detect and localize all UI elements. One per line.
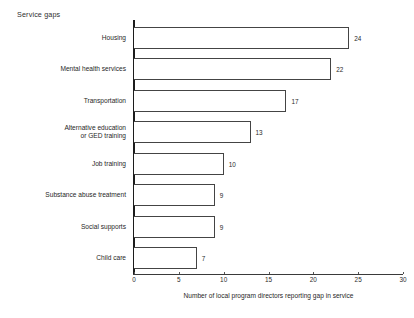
- x-tick-mark: [179, 272, 180, 274]
- category-label: Alternative educationor GED training: [0, 117, 126, 149]
- bar-row: 22: [134, 54, 403, 86]
- category-label: Transportation: [0, 85, 126, 117]
- x-tick-mark: [403, 272, 404, 274]
- bar: [134, 121, 251, 143]
- bar-value-label: 7: [202, 255, 206, 262]
- category-axis: HousingMental health servicesTransportat…: [0, 22, 130, 274]
- plot-area: 2422171310997: [134, 22, 403, 274]
- bar-value-label: 24: [354, 34, 361, 41]
- x-tick-mark: [134, 272, 135, 274]
- bar: [134, 184, 215, 206]
- x-tick-mark: [313, 272, 314, 274]
- x-tick-label: 25: [355, 276, 362, 283]
- bar-row: 17: [134, 85, 403, 117]
- x-tick-label: 0: [132, 276, 136, 283]
- bar-value-label: 13: [256, 129, 263, 136]
- bar: [134, 27, 349, 49]
- bar: [134, 58, 331, 80]
- x-tick-label: 15: [265, 276, 272, 283]
- bar-value-label: 9: [220, 192, 224, 199]
- category-label: Mental health services: [0, 54, 126, 86]
- x-tick-mark: [358, 272, 359, 274]
- bar-row: 13: [134, 117, 403, 149]
- chart-title: Service gaps: [17, 10, 60, 19]
- category-label: Child care: [0, 243, 126, 275]
- bar-row: 24: [134, 22, 403, 54]
- x-tick-label: 10: [220, 276, 227, 283]
- bar-row: 9: [134, 180, 403, 212]
- bar-value-label: 9: [220, 223, 224, 230]
- bar-row: 10: [134, 148, 403, 180]
- bar: [134, 247, 197, 269]
- bar-chart-figure: Service gaps HousingMental health servic…: [0, 0, 414, 318]
- bar-value-label: 22: [336, 66, 343, 73]
- category-label: Social supports: [0, 211, 126, 243]
- x-axis-title: Number of local program directors report…: [134, 292, 403, 299]
- bar: [134, 90, 286, 112]
- bar: [134, 216, 215, 238]
- x-tick-label: 5: [177, 276, 181, 283]
- x-tick-label: 20: [310, 276, 317, 283]
- bar: [134, 153, 224, 175]
- bar-value-label: 17: [291, 97, 298, 104]
- x-axis-ticks: 051015202530: [134, 274, 403, 286]
- category-label: Housing: [0, 22, 126, 54]
- x-tick-mark: [269, 272, 270, 274]
- category-label: Job training: [0, 148, 126, 180]
- bar-row: 9: [134, 211, 403, 243]
- bar-value-label: 10: [229, 160, 236, 167]
- category-label: Substance abuse treatment: [0, 180, 126, 212]
- bar-row: 7: [134, 243, 403, 275]
- x-tick-label: 30: [399, 276, 406, 283]
- x-tick-mark: [224, 272, 225, 274]
